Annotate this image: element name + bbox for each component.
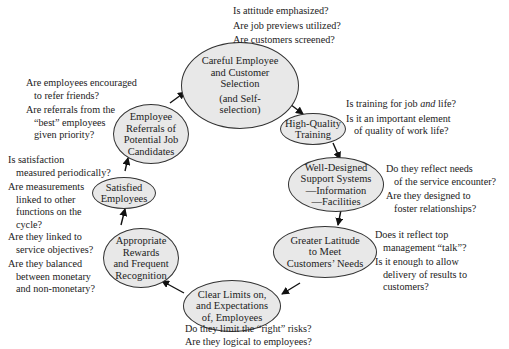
questions-selection: Is attitude emphasized? Are job previews… <box>233 5 341 49</box>
arrow-latitude-to-limits <box>282 283 300 294</box>
questions-satisfied: Is satisfactionmeasured periodically? Ar… <box>8 154 111 234</box>
arrow-satisfied-to-referrals <box>125 158 128 171</box>
questions-limits: Do they limit the “right” risks? Are the… <box>185 323 312 348</box>
node-support-systems: Well-Designed Support Systems —Informati… <box>288 157 384 212</box>
arrow-support-to-latitude <box>338 210 341 225</box>
node-careful-selection: Careful Employee and Customer Selection … <box>181 42 299 129</box>
questions-latitude: Does it reflect topmanagement “talk”? Is… <box>375 229 467 296</box>
node-appropriate-rewards: Appropriate Rewards and Frequent Recogni… <box>103 228 179 288</box>
questions-referrals: Are employees encouragedto refer friends… <box>26 77 137 144</box>
arrow-limits-to-rewards <box>162 281 184 293</box>
arrow-rewards-to-satisfied <box>121 209 125 225</box>
node-greater-latitude: Greater Latitude to Meet Customers’ Need… <box>273 226 377 278</box>
questions-rewards: Are they linked toservice objectives? Ar… <box>8 231 95 298</box>
questions-support: Do they reflect needsof the service enco… <box>386 163 496 217</box>
questions-training: Is training for job and life? Is it an i… <box>346 98 456 140</box>
node-high-quality-training: High-Quality Training <box>280 113 346 145</box>
